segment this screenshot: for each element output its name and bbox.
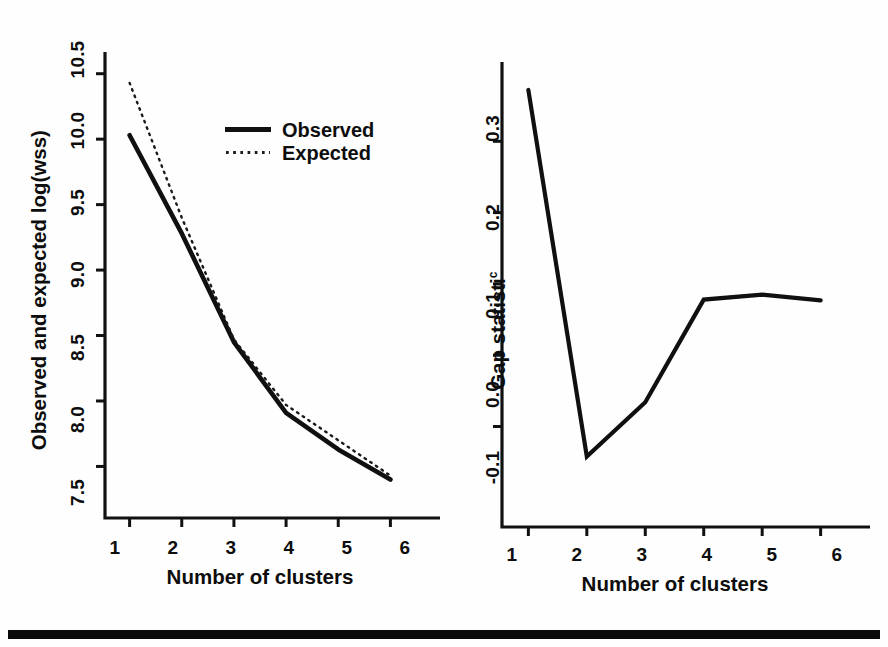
left-y-axis-title: Observed and expected log(wss) [29, 130, 50, 450]
legend-item-observed: Observed [225, 118, 375, 141]
left-xtick-label: 5 [336, 538, 358, 557]
legend: Observed Expected [225, 118, 375, 164]
right-xtick-label: 3 [631, 545, 653, 564]
left-xtick-label: 4 [278, 538, 300, 557]
right-y-axis-title-subscript: c [486, 272, 500, 279]
left-ytick-label: 9.0 [68, 256, 87, 294]
legend-label-expected: Expected [282, 143, 371, 163]
right-x-axis-title: Number of clusters [560, 574, 790, 595]
left-ytick-label: 8.5 [68, 329, 87, 367]
series-gap-statistic [528, 90, 820, 457]
left-ytick-label: 8.0 [68, 401, 87, 439]
axis-spine [502, 62, 870, 527]
right-xtick-label: 2 [566, 545, 588, 564]
right-xtick-label: 6 [826, 545, 848, 564]
series-observed [130, 135, 391, 479]
right-y-axis-title: Gap statistic [487, 231, 508, 431]
right-xtick-label: 5 [761, 545, 783, 564]
figure-root: 10.5 10.0 9.5 9.0 8.5 8.0 7.5 Observed a… [0, 0, 888, 647]
right-ytick-label: -0.1 [483, 446, 502, 490]
left-ytick-label: 10.5 [68, 38, 87, 82]
legend-solid-line-icon [225, 123, 271, 137]
left-xtick-label: 6 [394, 538, 416, 557]
right-xtick-label: 4 [696, 545, 718, 564]
left-xtick-label: 1 [104, 538, 126, 557]
chart-panel-right: 0.3 0.2 0.1 0.0 -0.1 Gap statistic 1 2 3… [450, 0, 888, 647]
left-ytick-label: 7.5 [68, 474, 87, 512]
legend-label-observed: Observed [282, 120, 374, 140]
right-ytick-label: 0.3 [483, 110, 502, 148]
legend-item-expected: Expected [225, 141, 375, 164]
right-xtick-label: 1 [501, 545, 523, 564]
left-ytick-label: 10.0 [68, 109, 87, 153]
left-xtick-label: 3 [220, 538, 242, 557]
left-xtick-label: 2 [162, 538, 184, 557]
chart-panel-left: 10.5 10.0 9.5 9.0 8.5 8.0 7.5 Observed a… [0, 0, 450, 647]
left-ytick-label: 9.5 [68, 184, 87, 222]
legend-dotted-line-icon [225, 146, 271, 160]
right-y-axis-title-text: Gap statisti [486, 278, 509, 390]
horizontal-rule [8, 630, 880, 639]
left-x-axis-title: Number of clusters [145, 567, 375, 588]
